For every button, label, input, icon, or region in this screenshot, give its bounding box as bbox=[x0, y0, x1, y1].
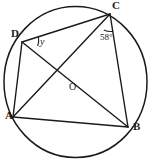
geometry-diagram: A B C D O y 58° bbox=[0, 0, 152, 167]
point-label-C: C bbox=[112, 0, 120, 11]
segment-AD bbox=[13, 42, 22, 117]
centre-label-O: O bbox=[69, 82, 76, 92]
point-label-B: B bbox=[133, 121, 140, 132]
angle-label-58-degrees: 58° bbox=[100, 33, 113, 42]
point-label-D: D bbox=[11, 28, 19, 39]
angle-label-y: y bbox=[40, 37, 44, 47]
point-label-A: A bbox=[5, 110, 13, 121]
angle-arc-D bbox=[38, 37, 39, 46]
segment-AB bbox=[13, 117, 128, 127]
